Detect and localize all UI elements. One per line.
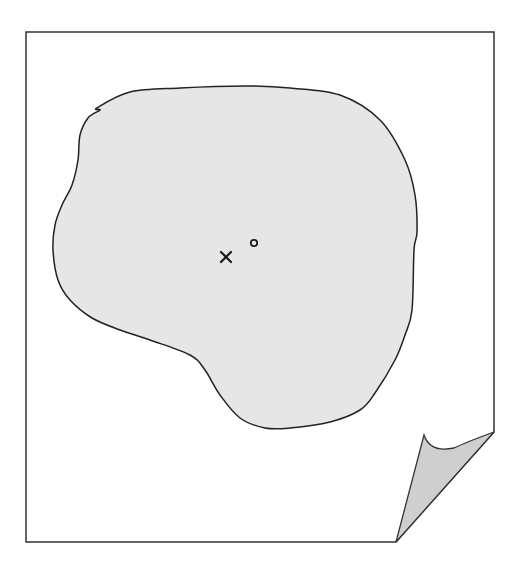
diagram-canvas bbox=[0, 0, 532, 572]
diagram-svg bbox=[0, 0, 532, 572]
